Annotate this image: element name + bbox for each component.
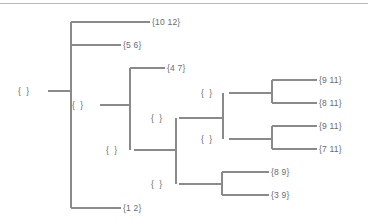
tree-leaf-1-2: {1 2} xyxy=(123,203,142,213)
tree-node-e: { } xyxy=(201,134,212,144)
tree-node-c: { } xyxy=(151,113,162,123)
tree-leaf-9-11-upper: {9 11} xyxy=(319,75,342,85)
tree-leaf-3-9: {3 9} xyxy=(271,190,290,200)
tree-leaf-8-9: {8 9} xyxy=(271,167,290,177)
tree-leaf-5-6: {5 6} xyxy=(123,40,142,50)
tree-leaf-4-7: {4 7} xyxy=(167,63,186,73)
tree-node-f: { } xyxy=(151,179,162,189)
tree-node-b: { } xyxy=(106,145,117,155)
tree-leaf-9-11-lower: {9 11} xyxy=(319,121,342,131)
tree-leaf-7-11: {7 11} xyxy=(319,144,342,154)
tree-leaf-10-12: {10 12} xyxy=(152,17,180,27)
tree-node-a: { } xyxy=(72,100,83,110)
tree-node-d: { } xyxy=(201,88,212,98)
tree-node-root: { } xyxy=(18,86,29,96)
tree-leaf-8-11: {8 11} xyxy=(319,98,342,108)
tree-edges xyxy=(0,0,368,221)
diagram-canvas: { } { } { } { } { } { } { } {10 12} {5 6… xyxy=(0,0,368,221)
